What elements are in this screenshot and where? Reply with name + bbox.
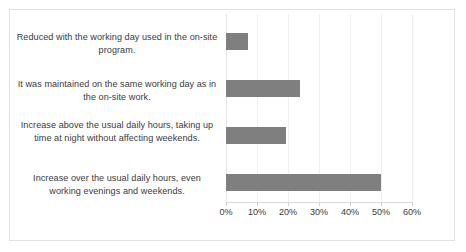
bar-chart: 0% 10% 20% 30% 40% 50% 60% Reduced with … — [9, 9, 455, 241]
bar-increase-above-usual-hours-nights — [226, 127, 286, 144]
bar-maintained-same-working-day — [226, 80, 300, 97]
x-tick-label-60: 60% — [392, 206, 432, 218]
bar-increase-over-usual-hours-evenings-weekends — [226, 174, 381, 191]
gridline-60 — [412, 14, 413, 202]
category-label-increase-above-usual-hours-nights: Increase above the usual daily hours, ta… — [16, 119, 218, 144]
plot-area — [226, 14, 412, 202]
category-label-increase-over-usual-hours-evenings-weekends: Increase over the usual daily hours, eve… — [16, 172, 218, 197]
gridline-50 — [381, 14, 382, 202]
category-label-maintained-same-working-day: It was maintained on the same working da… — [16, 78, 218, 103]
bar-reduced-working-day — [226, 33, 248, 50]
category-label-reduced-working-day: Reduced with the working day used in the… — [16, 31, 218, 56]
